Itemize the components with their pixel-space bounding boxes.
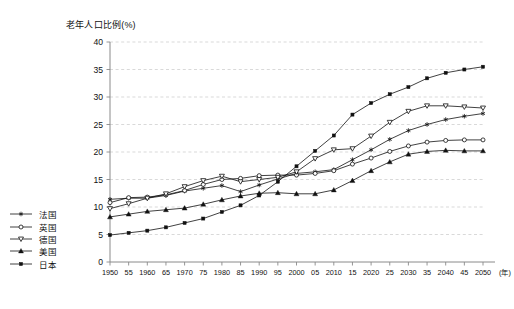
series-marker-filled-square: [202, 217, 205, 220]
x-axis-tick-label: 25: [386, 268, 394, 277]
legend-marker-open-circle-icon: [8, 221, 34, 233]
series-marker-asterisk: [257, 183, 261, 188]
series-marker-filled-square: [258, 194, 261, 197]
series-marker-filled-square: [19, 262, 22, 265]
series-marker-open-triangle-down: [387, 120, 392, 124]
x-axis-tick-label: 1950: [102, 268, 118, 277]
y-axis-tick-label: 15: [93, 175, 103, 185]
chart-container: 老年人口比例(%) 051015202530354019505519606519…: [0, 0, 514, 309]
series-marker-open-circle: [388, 149, 392, 153]
series-marker-open-circle: [127, 196, 131, 200]
series-marker-open-circle: [350, 162, 354, 166]
x-axis-tick-label: 2020: [363, 268, 379, 277]
y-axis-tick-label: 40: [93, 37, 103, 47]
legend-item-label: 日本: [39, 258, 58, 270]
series-marker-filled-triangle-up: [369, 168, 374, 172]
y-axis-tick-label: 5: [98, 230, 103, 240]
legend-item-label: 法国: [39, 208, 58, 220]
x-axis-tick-label: 2010: [326, 268, 342, 277]
series-marker-filled-square: [127, 231, 130, 234]
x-axis-tick-label: 1960: [139, 268, 155, 277]
series-marker-filled-square: [239, 204, 242, 207]
series-marker-filled-square: [164, 226, 167, 229]
series-marker-open-circle: [462, 138, 466, 142]
x-axis-tick-label: 45: [460, 268, 468, 277]
chart-legend: 法国英国德国美国日本: [8, 208, 70, 270]
series-marker-filled-triangle-up: [387, 159, 392, 163]
series-marker-open-circle: [313, 171, 317, 175]
x-axis-tick-label: 1990: [251, 268, 267, 277]
series-marker-open-triangle-down: [313, 157, 318, 161]
series-marker-filled-square: [351, 113, 354, 116]
x-axis-unit-label: (年): [499, 268, 511, 277]
legend-marker-filled-square-icon: [8, 258, 34, 270]
legend-item-法国[interactable]: 法国: [8, 208, 70, 220]
series-marker-filled-square: [463, 68, 466, 71]
y-axis-tick-label: 25: [93, 120, 103, 130]
series-marker-filled-square: [108, 234, 111, 237]
legend-item-英国[interactable]: 英国: [8, 220, 70, 232]
x-axis-tick-label: 55: [125, 268, 133, 277]
x-axis-tick-label: 2050: [475, 268, 491, 277]
series-marker-filled-triangle-up: [350, 178, 355, 182]
series-marker-filled-square: [183, 221, 186, 224]
line-chart-plot: 0510152025303540195055196065197075198085…: [0, 0, 514, 309]
y-axis-tick-label: 20: [93, 147, 103, 157]
series-marker-open-circle: [332, 169, 336, 173]
series-marker-filled-square: [370, 102, 373, 105]
legend-item-美国[interactable]: 美国: [8, 245, 70, 257]
x-axis-tick-label: 15: [348, 268, 356, 277]
y-axis-tick-label: 0: [98, 257, 103, 267]
x-axis-tick-label: 75: [199, 268, 207, 277]
legend-item-label: 美国: [39, 245, 58, 257]
x-axis-tick-label: 65: [162, 268, 170, 277]
x-axis-tick-label: 05: [311, 268, 319, 277]
series-marker-open-circle: [425, 140, 429, 144]
series-marker-open-circle: [481, 138, 485, 142]
legend-marker-filled-triangle-up-icon: [8, 245, 34, 257]
x-axis-tick-label: 2000: [288, 268, 304, 277]
x-axis-tick-label: 2030: [400, 268, 416, 277]
legend-item-label: 英国: [39, 221, 58, 233]
series-marker-open-triangle-down: [238, 180, 243, 184]
legend-marker-asterisk-icon: [8, 208, 34, 220]
x-axis-tick-label: 85: [236, 268, 244, 277]
x-axis-tick-label: 1980: [214, 268, 230, 277]
y-axis-tick-label: 10: [93, 202, 103, 212]
series-marker-open-triangle-down: [108, 207, 113, 211]
series-marker-filled-square: [332, 134, 335, 137]
x-axis-tick-label: 95: [274, 268, 282, 277]
y-axis-title: 老年人口比例(%): [66, 18, 136, 31]
series-marker-open-circle: [257, 174, 261, 178]
series-marker-asterisk: [388, 137, 392, 142]
series-marker-filled-triangle-up: [331, 187, 336, 191]
series-marker-asterisk: [406, 128, 410, 133]
series-marker-filled-square: [146, 229, 149, 232]
series-marker-asterisk: [369, 148, 373, 153]
legend-item-日本[interactable]: 日本: [8, 258, 70, 270]
y-axis-tick-label: 35: [93, 65, 103, 75]
series-marker-filled-square: [481, 65, 484, 68]
series-3: [108, 148, 486, 219]
legend-marker-open-triangle-down-icon: [8, 233, 34, 245]
series-marker-filled-square: [314, 149, 317, 152]
series-marker-asterisk: [350, 157, 354, 162]
series-marker-open-triangle-down: [406, 109, 411, 113]
series-marker-open-triangle-down: [369, 134, 374, 138]
legend-item-label: 德国: [39, 233, 58, 245]
series-marker-filled-square: [276, 180, 279, 183]
series-marker-filled-square: [444, 71, 447, 74]
series-marker-filled-square: [220, 210, 223, 213]
x-axis-tick-label: 1970: [176, 268, 192, 277]
x-axis-tick-label: 2040: [438, 268, 454, 277]
x-axis-tick-label: 35: [423, 268, 431, 277]
legend-item-德国[interactable]: 德国: [8, 233, 70, 245]
series-marker-open-circle: [108, 201, 112, 205]
series-marker-open-circle: [369, 156, 373, 160]
series-marker-open-circle: [19, 225, 23, 229]
series-marker-filled-square: [388, 93, 391, 96]
y-axis-tick-label: 30: [93, 92, 103, 102]
series-marker-filled-square: [426, 77, 429, 80]
series-marker-filled-square: [407, 86, 410, 89]
series-marker-filled-square: [295, 165, 298, 168]
